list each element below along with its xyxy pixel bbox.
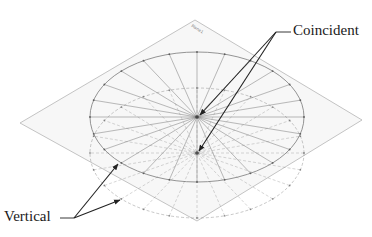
sketch-point: [120, 198, 122, 200]
center-point: [195, 115, 199, 119]
sketch-point: [93, 169, 95, 171]
sketch-point: [103, 120, 105, 122]
sketch-point: [224, 179, 226, 181]
sketch-point: [196, 217, 198, 219]
sketch-point: [196, 181, 198, 183]
sketch-point: [120, 70, 122, 72]
sketch-point: [272, 106, 274, 108]
sketch-point: [103, 149, 105, 151]
upper-circle-sketch: [89, 51, 305, 183]
sketch-point: [303, 116, 305, 118]
sketch-point: [168, 179, 170, 181]
sketch-point: [143, 172, 145, 174]
sketch-point: [168, 215, 170, 217]
sketch-point: [143, 96, 145, 98]
sketch-point: [196, 51, 198, 53]
sketch-point: [289, 185, 291, 187]
sketch-point: [168, 53, 170, 55]
sketch-point: [303, 152, 305, 154]
sketch-point: [299, 99, 301, 101]
sketch-point: [224, 215, 226, 217]
sketch-point: [89, 116, 91, 118]
sketch-point: [250, 208, 252, 210]
sketch-point: [103, 185, 105, 187]
sketch-point: [299, 133, 301, 135]
sketch-point: [272, 198, 274, 200]
sketch-point: [93, 99, 95, 101]
sketch-point: [272, 70, 274, 72]
sketch-point: [250, 96, 252, 98]
coincident-label: Coincident: [293, 22, 359, 39]
sketch-point: [103, 84, 105, 86]
sketch-point: [289, 149, 291, 151]
sketch-point: [93, 133, 95, 135]
sketch-point: [224, 89, 226, 91]
sketch-point: [143, 60, 145, 62]
sketch-point: [250, 172, 252, 174]
sketch-point: [168, 89, 170, 91]
sketch-point: [299, 169, 301, 171]
sketch-point: [89, 152, 91, 154]
sketch-point: [289, 120, 291, 122]
sketch-point: [120, 162, 122, 164]
sketch-point: [120, 106, 122, 108]
vertical-label: Vertical: [4, 208, 51, 225]
sketch-point: [143, 208, 145, 210]
sketch-point: [272, 162, 274, 164]
sketch-point: [289, 84, 291, 86]
sketch-point: [224, 53, 226, 55]
